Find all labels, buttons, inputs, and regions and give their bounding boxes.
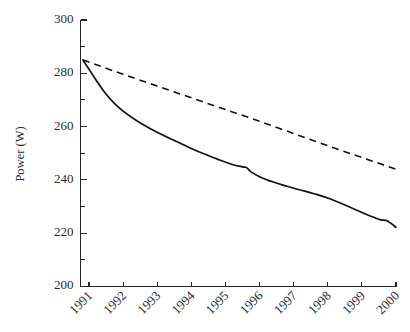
chart-svg: 200220240260280300 199119921993199419951… [0, 0, 410, 332]
y-tick-label: 220 [54, 224, 74, 239]
y-tick-label: 280 [54, 64, 74, 79]
y-axis-title: Power (W) [13, 126, 27, 181]
y-tick-label: 200 [54, 277, 74, 292]
y-tick-label: 300 [54, 11, 74, 26]
y-tick-label: 260 [54, 118, 74, 133]
chart-figure: 200220240260280300 199119921993199419951… [0, 0, 410, 332]
y-tick-label: 240 [54, 171, 74, 186]
